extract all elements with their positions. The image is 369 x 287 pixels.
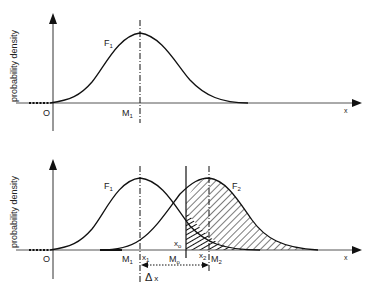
- x0-label: xo: [174, 239, 182, 249]
- x2-label: x2: [199, 251, 207, 261]
- top-x-arrow-icon: [352, 99, 362, 107]
- bottom-origin-label: O: [43, 254, 50, 264]
- top-f1-label: F1: [104, 38, 114, 49]
- bottom-m1-label: M1: [122, 254, 134, 265]
- delta-x-label: Δx: [145, 271, 158, 283]
- delta-right-arrow-icon: [202, 262, 209, 268]
- f2-label: F2: [232, 181, 242, 192]
- bottom-x-arrow-icon: [352, 246, 362, 254]
- top-f1-curve: [50, 33, 248, 103]
- bottom-ylabel: probability density: [9, 175, 19, 248]
- diagram: probability density F1 M1 O x probabilit…: [0, 0, 369, 287]
- top-ylabel: probability density: [9, 29, 19, 102]
- m0-label: Mo: [169, 254, 181, 265]
- top-m1-label: M1: [122, 108, 134, 119]
- bottom-x-label: x: [344, 254, 348, 261]
- x1-label: x1: [142, 253, 150, 263]
- top-x-label: x: [344, 107, 348, 114]
- top-panel: probability density F1 M1 O x: [9, 13, 362, 131]
- top-origin-label: O: [43, 108, 50, 118]
- bottom-y-arrow-icon: [49, 159, 57, 170]
- m2-label: M2: [211, 254, 223, 265]
- top-y-arrow-icon: [49, 13, 57, 24]
- bottom-f1-label: F1: [104, 181, 114, 192]
- bottom-panel: probability density F1 F2 M1 x1 Mo xo: [9, 159, 362, 284]
